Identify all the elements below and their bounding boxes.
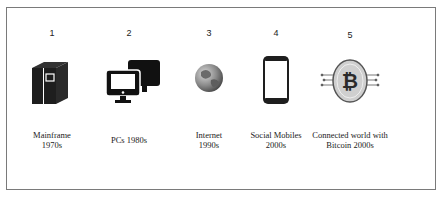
stage-number: 2 xyxy=(89,28,169,38)
stage-number: 4 xyxy=(236,28,316,38)
smartphone-icon xyxy=(262,55,290,105)
svg-text:₿: ₿ xyxy=(342,69,358,93)
desktop-pcs-icon xyxy=(104,58,164,106)
stage-mainframe: 1 Mainframe 1970s xyxy=(12,0,92,200)
stage-pcs: 2 PCs 1980s xyxy=(89,0,169,200)
bitcoin-coin-icon: ₿ xyxy=(320,56,380,106)
stage-number: 1 xyxy=(12,28,92,38)
stage-social-mobiles: 4 Social Mobiles 2000s xyxy=(236,0,316,200)
globe-icon xyxy=(193,62,225,94)
stage-bitcoin: 5 ₿ Connected world with Bitcoin 2000s xyxy=(310,0,390,200)
stage-number: 5 xyxy=(310,30,390,40)
mainframe-icon xyxy=(28,58,76,106)
stage-label: Connected world with Bitcoin 2000s xyxy=(298,130,402,150)
